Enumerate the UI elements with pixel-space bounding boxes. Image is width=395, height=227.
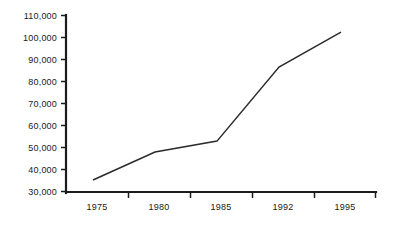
y-tick-label: 80,000 xyxy=(28,77,57,87)
x-tick-label: 1980 xyxy=(149,202,170,212)
chart-canvas: 110,000 100,000 90,000 80,000 70,000 60,… xyxy=(0,0,395,227)
x-tick-label: 1992 xyxy=(273,202,294,212)
y-tick-label: 30,000 xyxy=(28,187,57,197)
x-tick-label: 1985 xyxy=(211,202,232,212)
y-tick-label: 50,000 xyxy=(28,143,57,153)
line-chart: 110,000 100,000 90,000 80,000 70,000 60,… xyxy=(0,0,395,227)
y-tick-label: 40,000 xyxy=(28,165,57,175)
x-tick-label: 1975 xyxy=(87,202,108,212)
y-tick-label: 60,000 xyxy=(28,121,57,131)
y-tick-label: 90,000 xyxy=(28,55,57,65)
y-tick-label: 100,000 xyxy=(23,33,57,43)
y-tick-label: 110,000 xyxy=(24,11,57,21)
y-tick-label: 70,000 xyxy=(28,99,57,109)
x-tick-label: 1995 xyxy=(335,202,356,212)
y-axis-tick-labels: 110,000 100,000 90,000 80,000 70,000 60,… xyxy=(23,11,57,197)
